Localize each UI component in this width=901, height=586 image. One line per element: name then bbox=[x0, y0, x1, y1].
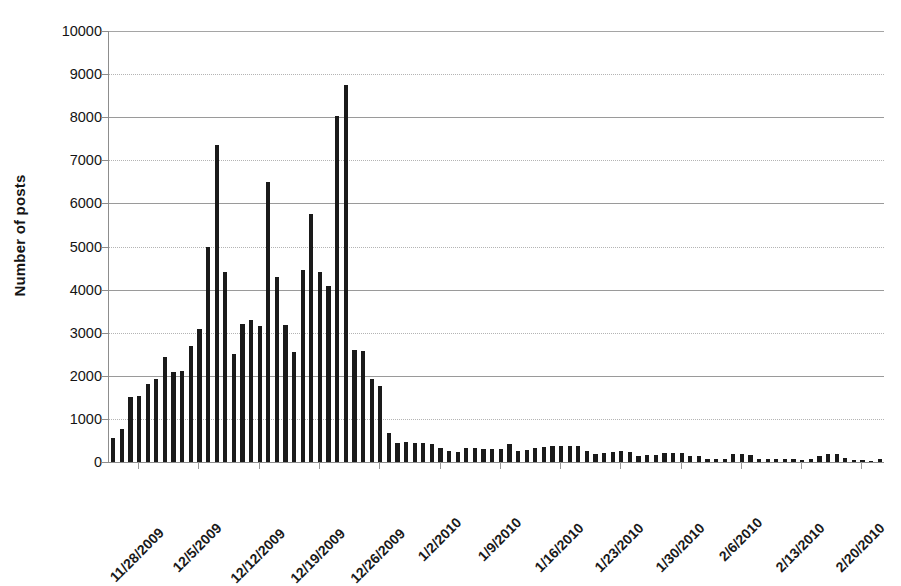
y-axis-tick-mark bbox=[101, 203, 108, 204]
x-axis-tick-label: 2/13/2010 bbox=[817, 476, 872, 531]
bar bbox=[731, 454, 735, 462]
bar bbox=[473, 448, 477, 462]
y-axis-tick-mark bbox=[101, 333, 108, 334]
bar bbox=[464, 448, 468, 462]
bar bbox=[111, 438, 115, 462]
bar bbox=[559, 446, 563, 462]
bar bbox=[602, 453, 606, 462]
bar bbox=[835, 454, 839, 462]
y-axis-tick-mark bbox=[101, 74, 108, 75]
bar bbox=[318, 272, 322, 463]
bar bbox=[438, 448, 442, 462]
x-axis-tick-mark bbox=[741, 462, 742, 469]
x-axis-tick-label-text: 2/13/2010 bbox=[773, 520, 828, 575]
bar bbox=[585, 451, 589, 462]
bar bbox=[645, 455, 649, 462]
bar bbox=[671, 453, 675, 462]
bar bbox=[223, 272, 227, 462]
x-axis-tick-label: 2/20/2010 bbox=[877, 476, 901, 531]
bar bbox=[361, 351, 365, 462]
x-axis-tick-mark bbox=[861, 462, 862, 469]
bar bbox=[309, 214, 313, 462]
x-axis-tick-label-text: 1/9/2010 bbox=[474, 514, 524, 564]
bar bbox=[550, 446, 554, 462]
x-axis-tick-label-text: 12/19/2009 bbox=[287, 525, 348, 586]
x-axis-tick-label: 2/6/2010 bbox=[754, 476, 804, 526]
bar bbox=[826, 454, 830, 462]
x-axis-tick-label: 12/5/2009 bbox=[214, 476, 269, 531]
bar bbox=[292, 352, 296, 462]
bar bbox=[232, 354, 236, 462]
x-axis-tick-label: 1/2/2010 bbox=[453, 476, 503, 526]
y-axis-tick-mark bbox=[101, 419, 108, 420]
bar bbox=[128, 397, 132, 462]
x-axis-tick-label-text: 12/5/2009 bbox=[170, 520, 225, 575]
bar bbox=[568, 446, 572, 462]
bar bbox=[525, 450, 529, 462]
bar bbox=[611, 452, 615, 462]
y-axis-tick-mark bbox=[101, 117, 108, 118]
bar bbox=[680, 453, 684, 462]
bar bbox=[146, 384, 150, 462]
bar bbox=[404, 442, 408, 462]
x-axis-tick-mark bbox=[440, 462, 441, 469]
bar bbox=[654, 455, 658, 462]
bar bbox=[215, 145, 219, 462]
bar bbox=[344, 85, 348, 462]
bar bbox=[533, 448, 537, 462]
y-axis-tick-mark bbox=[101, 247, 108, 248]
x-axis-tick-mark bbox=[560, 462, 561, 469]
x-axis-tick-label: 12/12/2009 bbox=[276, 476, 337, 537]
bars-layer bbox=[109, 31, 884, 462]
bar bbox=[197, 329, 201, 462]
x-axis-tick-mark bbox=[319, 462, 320, 469]
bar bbox=[266, 182, 270, 462]
y-axis-tick-mark bbox=[101, 160, 108, 161]
bar bbox=[283, 325, 287, 462]
x-axis-tick-label-text: 1/23/2010 bbox=[592, 520, 647, 575]
x-axis-tick-label: 1/9/2010 bbox=[513, 476, 563, 526]
x-axis-tick-label-text: 2/6/2010 bbox=[716, 514, 766, 564]
bar bbox=[387, 433, 391, 462]
bar bbox=[628, 452, 632, 462]
bar bbox=[301, 270, 305, 462]
bar bbox=[378, 386, 382, 462]
bar bbox=[154, 379, 158, 462]
bar bbox=[740, 454, 744, 462]
bar bbox=[395, 443, 399, 462]
bar bbox=[335, 116, 339, 462]
y-axis-tick-mark bbox=[101, 31, 108, 32]
x-axis-tick-label-text: 2/20/2010 bbox=[833, 520, 888, 575]
y-axis-tick-mark bbox=[101, 376, 108, 377]
bar bbox=[249, 320, 253, 462]
x-axis-tick-label: 12/19/2009 bbox=[337, 476, 398, 537]
x-axis-tick-label: 1/30/2010 bbox=[696, 476, 751, 531]
x-axis-tick-mark bbox=[801, 462, 802, 469]
bar bbox=[576, 446, 580, 462]
x-axis-tick-label-text: 12/12/2009 bbox=[227, 525, 288, 586]
bar bbox=[413, 443, 417, 462]
y-axis-tick-marks bbox=[0, 31, 110, 462]
bar bbox=[275, 277, 279, 462]
x-axis-tick-marks bbox=[108, 462, 883, 470]
y-axis-tick-mark bbox=[101, 462, 108, 463]
x-axis-tick-label: 1/16/2010 bbox=[575, 476, 630, 531]
bar bbox=[421, 443, 425, 462]
bar bbox=[326, 286, 330, 462]
bar bbox=[662, 453, 666, 462]
bar bbox=[370, 379, 374, 462]
bar bbox=[120, 429, 124, 462]
x-axis-tick-mark bbox=[138, 462, 139, 469]
x-axis-tick-mark bbox=[379, 462, 380, 469]
bar bbox=[258, 326, 262, 462]
x-axis-tick-label: 1/23/2010 bbox=[636, 476, 691, 531]
bar bbox=[593, 454, 597, 462]
bar bbox=[171, 372, 175, 463]
bar bbox=[352, 350, 356, 462]
bar bbox=[507, 444, 511, 462]
bar bbox=[456, 452, 460, 462]
bar bbox=[180, 371, 184, 462]
bar bbox=[481, 449, 485, 462]
bar bbox=[542, 447, 546, 462]
bar bbox=[240, 324, 244, 462]
